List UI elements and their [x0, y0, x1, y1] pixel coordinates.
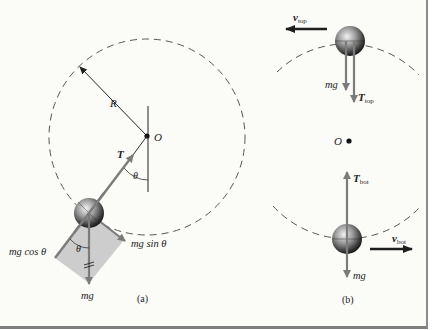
velocity-label-bottom: vbot [392, 232, 406, 246]
angle-label-bottom: θ [76, 243, 81, 254]
tension-label-bottom: Tbot [353, 172, 369, 186]
tension-label-a: T [117, 148, 125, 160]
string-a [133, 136, 147, 155]
angle-label-top: θ [133, 170, 138, 181]
caption-b: (b) [342, 294, 354, 306]
radius-label: R [109, 97, 117, 109]
tangential-component-label: mg sin θ [131, 238, 167, 249]
weight-label-bottom: mg [353, 270, 366, 281]
weight-label-a: mg [81, 290, 94, 301]
velocity-label-top: vtop [293, 11, 307, 25]
pivot-label-a: O [154, 131, 162, 143]
figure-stage: R O θ T θ [0, 0, 439, 330]
pivot-point-b [346, 138, 351, 143]
panel-a: R O θ T θ [9, 39, 245, 305]
vertical-circle-diagram: R O θ T θ [0, 0, 439, 330]
caption-a: (a) [137, 293, 148, 305]
weight-label-top: mg [325, 79, 338, 90]
tension-label-top: Ttop [358, 91, 374, 105]
radial-component-label: mg cos θ [9, 246, 46, 257]
panel-b: vtop mg Ttop O Tbo [273, 11, 420, 306]
pivot-label-b: O [334, 135, 342, 147]
